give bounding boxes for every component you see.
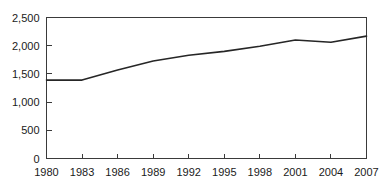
data-line-series-0: [47, 36, 367, 80]
x-tick-label: 1989: [141, 166, 165, 178]
x-tick-label: 1995: [212, 166, 236, 178]
y-axis-ticks: [47, 46, 52, 131]
x-tick-label: 2001: [283, 166, 307, 178]
line-chart-figure: 05001,0001,5002,0002,500 198019831986198…: [0, 0, 379, 185]
y-tick-label: 0: [33, 153, 39, 165]
x-tick-label: 2007: [354, 166, 378, 178]
x-axis-ticks: [82, 154, 331, 159]
y-tick-label: 2,000: [12, 40, 40, 52]
y-tick-label: 500: [21, 124, 39, 136]
chart-canvas: 05001,0001,5002,0002,500 198019831986198…: [0, 0, 379, 185]
x-tick-label: 2004: [319, 166, 343, 178]
x-tick-label: 1980: [34, 166, 58, 178]
x-tick-label: 1998: [248, 166, 272, 178]
plot-frame: [47, 18, 367, 159]
axis-frame: [47, 18, 367, 159]
y-axis-tick-labels: 05001,0001,5002,0002,500: [12, 12, 40, 165]
y-tick-label: 1,500: [12, 68, 40, 80]
x-tick-label: 1992: [176, 166, 200, 178]
y-tick-label: 1,000: [12, 96, 40, 108]
x-axis-tick-labels: 1980198319861989199219951998200120042007: [34, 166, 378, 178]
x-tick-label: 1983: [70, 166, 94, 178]
y-tick-label: 2,500: [12, 12, 40, 24]
data-series-group: [47, 36, 367, 80]
x-tick-label: 1986: [105, 166, 129, 178]
